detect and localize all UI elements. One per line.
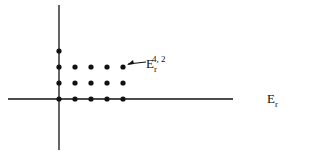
grid-point	[56, 48, 61, 53]
grid-point	[72, 64, 77, 69]
arrowhead-icon	[127, 60, 134, 65]
page-label: Er	[267, 92, 278, 105]
grid-point	[120, 96, 125, 101]
grid-point	[104, 64, 109, 69]
grid-point	[88, 96, 93, 101]
grid-point	[88, 80, 93, 85]
term-annotation-label: Er4, 2	[146, 57, 165, 70]
spectral-sequence-diagram	[0, 0, 313, 155]
grid-point	[72, 80, 77, 85]
grid-point	[72, 96, 77, 101]
grid-point	[56, 96, 61, 101]
grid-point	[120, 64, 125, 69]
grid-point	[88, 64, 93, 69]
grid-point	[104, 80, 109, 85]
grid-point	[56, 64, 61, 69]
grid-point	[56, 80, 61, 85]
grid-point	[104, 96, 109, 101]
grid-point	[120, 80, 125, 85]
